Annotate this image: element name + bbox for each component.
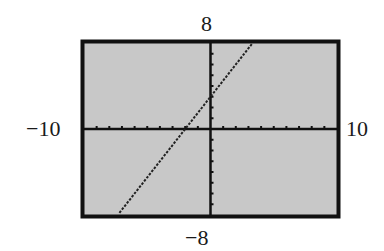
graph-screen — [0, 0, 384, 251]
